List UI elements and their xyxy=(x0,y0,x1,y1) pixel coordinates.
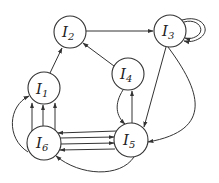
node-i6: I6 xyxy=(27,126,61,160)
edge-i1-i2 xyxy=(50,48,62,73)
edge-i3-i5-straight xyxy=(144,47,166,127)
edge-i6-i5-a xyxy=(60,137,114,138)
edge-i4-i2 xyxy=(83,43,114,66)
node-i1: I1 xyxy=(28,72,60,104)
edge-i3-self-loop-2 xyxy=(184,21,201,38)
node-i2: I2 xyxy=(54,16,86,48)
edge-i3-i5-curved xyxy=(148,47,195,142)
edge-i5-i6-curved xyxy=(56,156,134,172)
node-i5: I5 xyxy=(114,123,148,157)
edge-i4-i5 xyxy=(117,90,125,124)
edge-i6-i5-b xyxy=(61,143,114,144)
state-transition-diagram: I1 I2 I3 I4 I5 I6 xyxy=(0,0,219,183)
edge-i5-i6-top xyxy=(58,131,117,133)
node-i4: I4 xyxy=(112,58,144,90)
node-i3: I3 xyxy=(154,15,186,47)
edge-i5-i6-lower xyxy=(60,149,115,150)
